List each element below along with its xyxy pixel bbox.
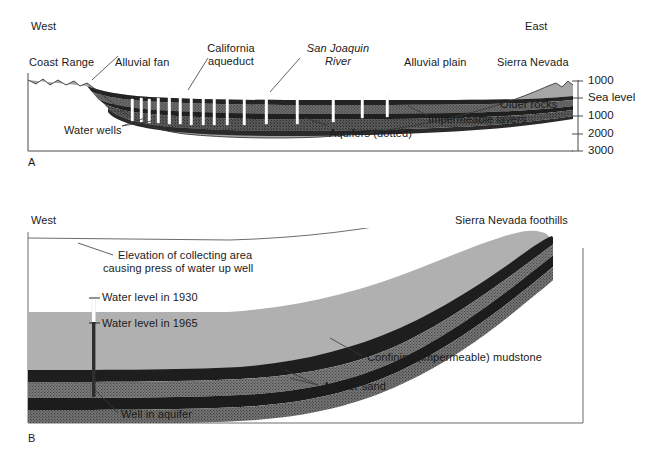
water-well — [386, 95, 389, 117]
water-well — [179, 97, 182, 124]
geology-cross-section-figure: West East Coast Range Alluvial fan Calif… — [0, 0, 663, 454]
well-casing-upper-b — [92, 297, 95, 322]
label-water-level-1930: Water level in 1930 — [102, 291, 198, 304]
label-elevation-collecting-area-line2: causing press of water up well — [103, 262, 253, 275]
label-san-joaquin-river-line2: River — [303, 55, 373, 68]
well-casing-lower-b — [92, 322, 95, 397]
label-aquifers-dotted: Aquifers (dotted) — [329, 127, 412, 140]
leader-san-joaquin-river — [270, 58, 300, 92]
panel-b-sierra-nevada-foothills: Sierra Nevada foothills — [455, 214, 568, 227]
water-well — [190, 98, 193, 125]
label-impermeable-layers: Impermeable layers — [428, 113, 526, 126]
label-san-joaquin-river-line1: San Joaquin — [303, 42, 373, 55]
water-well — [202, 98, 205, 125]
water-well — [131, 99, 134, 121]
water-well — [157, 98, 160, 123]
panel-letter-b: B — [28, 432, 35, 444]
water-well — [226, 98, 229, 125]
label-alluvial-fan: Alluvial fan — [115, 56, 169, 69]
label-older-rocks: Older rocks — [500, 98, 557, 111]
label-well-in-aquifer: Well in aquifer — [121, 408, 192, 421]
axis-tick-label-1000-below: 1000 — [588, 109, 614, 121]
water-well — [168, 92, 171, 124]
panel-a-direction-east: East — [525, 20, 547, 33]
panel-b-diagram — [28, 199, 583, 424]
panel-b-direction-west: West — [31, 214, 56, 227]
axis-tick-label-2000: 2000 — [588, 127, 614, 139]
water-well — [332, 96, 335, 122]
label-sierra-nevada: Sierra Nevada — [497, 56, 569, 69]
label-aquifer-sand: Aquifer sand — [323, 380, 386, 393]
panel-a-direction-west: West — [31, 20, 56, 33]
label-confining-mudstone: Confining (impermeable) mudstone — [367, 351, 542, 364]
water-well — [140, 98, 143, 122]
label-water-wells: Water wells — [64, 124, 122, 137]
label-water-level-1965: Water level in 1965 — [102, 317, 198, 330]
panel-b-strata — [28, 199, 583, 424]
leader-elevation-collecting-area — [78, 243, 113, 255]
axis-tick-label-1000-above: 1000 — [588, 74, 614, 86]
label-alluvial-plain: Alluvial plain — [404, 56, 467, 69]
panel-letter-a: A — [28, 156, 35, 168]
label-california-aqueduct-line2: aqueduct — [200, 55, 262, 68]
water-well — [213, 99, 216, 125]
water-well — [243, 98, 246, 125]
water-well — [265, 94, 268, 124]
water-well — [148, 99, 151, 123]
water-well — [296, 97, 299, 124]
water-well — [361, 96, 364, 118]
label-elevation-collecting-area-line1: Elevation of collecting area — [118, 249, 252, 262]
label-california-aqueduct-line1: California — [200, 42, 262, 55]
axis-tick-label-sea-level: Sea level — [588, 91, 635, 103]
axis-tick-label-3000: 3000 — [588, 144, 614, 156]
label-coast-range: Coast Range — [29, 56, 94, 69]
